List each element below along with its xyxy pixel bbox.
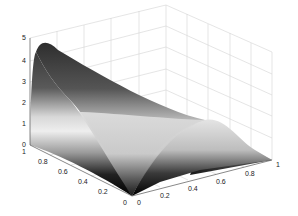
svg-text:0.8: 0.8	[245, 170, 255, 177]
surface-plot-canvas: 5 4 3 2 1 0 1 0.8 0.6 0.4 0.2 0 0 0.2 0.…	[0, 0, 298, 216]
svg-text:1: 1	[22, 148, 26, 155]
svg-text:2: 2	[22, 99, 26, 106]
svg-text:5: 5	[22, 34, 26, 41]
svg-text:1: 1	[276, 161, 280, 168]
svg-text:0: 0	[22, 141, 26, 148]
svg-text:0.4: 0.4	[188, 185, 198, 192]
z-axis-ticks: 5 4 3 2 1 0	[22, 34, 26, 148]
svg-text:4: 4	[22, 57, 26, 64]
svg-text:0.2: 0.2	[98, 188, 108, 195]
svg-text:0.4: 0.4	[78, 178, 88, 185]
svg-text:0.6: 0.6	[216, 178, 226, 185]
svg-text:0.8: 0.8	[38, 158, 48, 165]
svg-text:0.6: 0.6	[58, 168, 68, 175]
svg-text:0.2: 0.2	[160, 192, 170, 199]
svg-text:0: 0	[123, 199, 127, 206]
svg-text:0: 0	[137, 199, 141, 206]
svg-text:1: 1	[22, 120, 26, 127]
svg-text:3: 3	[22, 78, 26, 85]
surface-plot-figure: 5 4 3 2 1 0 1 0.8 0.6 0.4 0.2 0 0 0.2 0.…	[0, 0, 298, 216]
